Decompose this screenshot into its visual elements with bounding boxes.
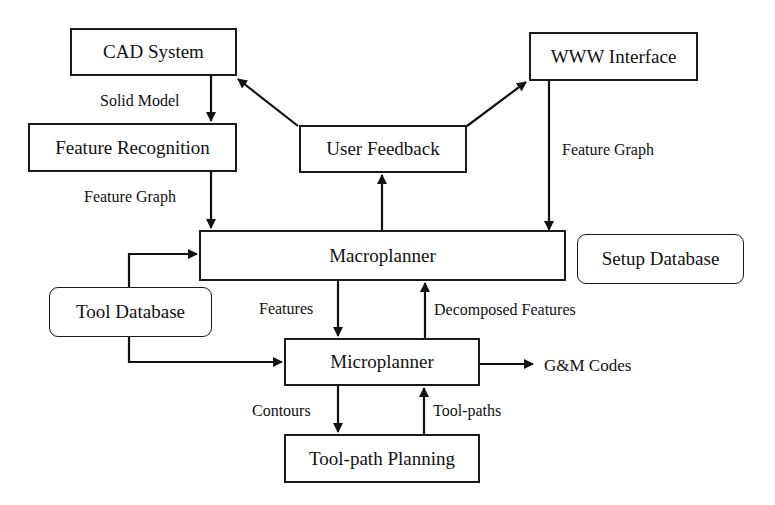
edge-label-feature-graph-left: Feature Graph bbox=[84, 189, 176, 205]
node-tool-database: Tool Database bbox=[49, 287, 212, 337]
arrow-tooldb-to-micro bbox=[129, 336, 282, 362]
node-setup-database: Setup Database bbox=[577, 234, 744, 284]
node-label: Macroplanner bbox=[329, 245, 436, 267]
node-label: Feature Recognition bbox=[55, 137, 210, 159]
node-label: User Feedback bbox=[326, 138, 439, 160]
arrow-feedback-to-www bbox=[467, 82, 526, 126]
edge-label-decomposed-features: Decomposed Features bbox=[434, 302, 576, 318]
edge-label-feature-graph-right: Feature Graph bbox=[562, 142, 654, 158]
node-macroplanner: Macroplanner bbox=[199, 230, 566, 281]
node-label: Tool-path Planning bbox=[309, 448, 455, 470]
node-microplanner: Microplanner bbox=[284, 338, 480, 386]
edge-label-toolpaths: Tool-paths bbox=[433, 403, 501, 419]
node-label: Setup Database bbox=[602, 248, 720, 270]
node-user-feedback: User Feedback bbox=[299, 125, 467, 173]
edge-label-contours: Contours bbox=[252, 403, 311, 419]
edge-label-solid-model: Solid Model bbox=[100, 93, 180, 109]
node-www-interface: WWW Interface bbox=[529, 32, 698, 81]
node-feature-recognition: Feature Recognition bbox=[28, 123, 237, 172]
node-label: CAD System bbox=[103, 41, 204, 63]
node-label: Microplanner bbox=[330, 351, 433, 373]
edge-label-features: Features bbox=[259, 301, 313, 317]
arrow-tooldb-to-macro bbox=[129, 254, 197, 287]
node-cad-system: CAD System bbox=[70, 28, 237, 76]
edge-label-gm-codes: G&M Codes bbox=[544, 357, 631, 374]
node-label: WWW Interface bbox=[551, 46, 677, 68]
arrow-feedback-to-cad bbox=[238, 79, 298, 126]
node-label: Tool Database bbox=[76, 301, 185, 323]
node-toolpath-planning: Tool-path Planning bbox=[284, 434, 480, 483]
